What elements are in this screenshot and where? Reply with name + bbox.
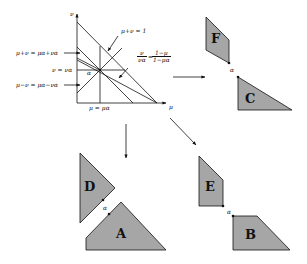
arrow-to-bottom-right — [170, 118, 196, 145]
point-C-corner — [237, 76, 240, 79]
label-B: B — [245, 228, 256, 241]
label-E: E — [205, 180, 215, 193]
point-B-corner — [232, 215, 235, 218]
ratio-lhs-den: να — [137, 57, 147, 63]
alpha-label-main: α — [87, 70, 91, 76]
label-C: C — [245, 92, 255, 105]
point-A-corner — [108, 213, 111, 216]
shape-B — [233, 216, 290, 250]
arrow-sum-annotation — [108, 36, 118, 51]
ratio-rhs-den: 1−μα — [152, 57, 171, 63]
label-A: A — [116, 227, 126, 240]
diagram-canvas — [0, 0, 307, 264]
label-F: F — [211, 32, 220, 45]
point-F-corner — [228, 62, 231, 65]
alpha-label-bottom-right: α — [227, 209, 231, 215]
lower-line-annotation: μ−ν = μα−να — [16, 82, 58, 88]
y-axis-label: ν — [70, 11, 74, 17]
mu-alpha-annotation: μ = μα — [89, 105, 110, 111]
label-D: D — [84, 180, 95, 193]
nu-alpha-annotation: ν = να — [52, 67, 72, 73]
point-E-corner — [222, 205, 225, 208]
sum-one-annotation: μ+ν = 1 — [121, 28, 146, 34]
ratio-lhs: ν να — [137, 50, 147, 63]
upper-line-annotation: μ+ν = μα+να — [16, 50, 58, 56]
x-axis-label: μ — [169, 104, 173, 110]
alpha-label-bottom-left: α — [103, 205, 107, 211]
shape-A — [86, 202, 166, 250]
alpha-label-top-right: α — [230, 67, 234, 73]
alpha-point — [99, 69, 101, 71]
point-D-corner — [102, 199, 105, 202]
ratio-rhs: 1−μ 1−μα — [152, 50, 171, 63]
